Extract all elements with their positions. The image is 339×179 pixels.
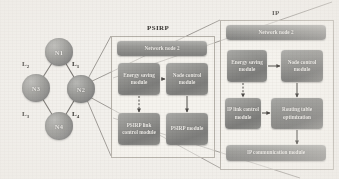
network-architecture-figure: N1 N3 N2 N4 L1 L2 L3 L4 PSIRP Network no… [0, 0, 339, 179]
module-flow-arrows [0, 0, 339, 179]
